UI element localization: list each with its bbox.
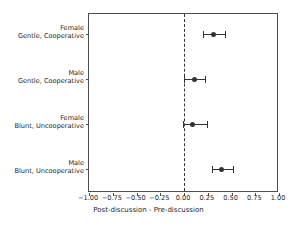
y-axis-tick-label: FemaleGentle, Cooperative <box>18 25 84 40</box>
y-axis-tick <box>86 34 89 35</box>
ci-cap-low <box>212 166 213 173</box>
data-point-marker <box>190 122 195 127</box>
y-label-line2: Blunt, Uncooperative <box>14 123 84 131</box>
ci-cap-low <box>184 76 185 83</box>
ci-cap-high <box>233 166 234 173</box>
y-label-line2: Gentle, Cooperative <box>18 33 84 41</box>
zero-reference-line <box>184 14 185 191</box>
ci-cap-high <box>207 121 208 128</box>
data-point-marker <box>211 32 216 37</box>
ci-cap-low <box>203 31 204 38</box>
ci-cap-low <box>183 121 184 128</box>
y-axis-tick-label: FemaleBlunt, Uncooperative <box>14 115 84 130</box>
plot-area <box>88 13 278 192</box>
y-axis-tick-label: MaleBlunt, Uncooperative <box>14 160 84 175</box>
y-axis-tick <box>86 124 89 125</box>
x-axis-tick-label: 1.00 <box>261 194 295 202</box>
figure: Post-discussion - Pre-discussion FemaleG… <box>0 0 297 228</box>
y-label-line2: Gentle, Cooperative <box>18 78 84 86</box>
y-axis-tick <box>86 79 89 80</box>
ci-cap-high <box>205 76 206 83</box>
y-axis-tick <box>86 169 89 170</box>
data-point-marker <box>219 167 224 172</box>
x-axis-label: Post-discussion - Pre-discussion <box>0 206 297 214</box>
y-label-line2: Blunt, Uncooperative <box>14 168 84 176</box>
ci-cap-high <box>225 31 226 38</box>
data-point-marker <box>192 77 197 82</box>
y-axis-tick-label: MaleGentle, Cooperative <box>18 70 84 85</box>
